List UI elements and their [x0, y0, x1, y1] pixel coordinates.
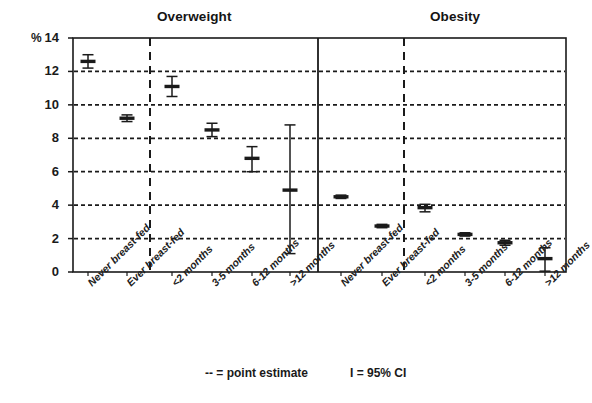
data-point-marker: [245, 147, 260, 172]
data-point-marker: [458, 233, 473, 236]
plot-frame: [73, 38, 566, 272]
y-axis-tick-label: 0: [35, 265, 59, 278]
y-axis-tick-label: 12: [35, 64, 59, 77]
data-point-marker: [334, 195, 349, 198]
y-axis-tick-label: 10: [35, 98, 59, 111]
legend-point-estimate: -- = point estimate: [205, 366, 308, 380]
y-axis-tick-label: 8: [35, 131, 59, 144]
y-axis-tick-label: 2: [35, 232, 59, 245]
data-point-marker: [120, 115, 135, 122]
y-axis-tick-label: 14: [35, 31, 59, 44]
data-point-marker: [81, 55, 96, 68]
data-point-marker: [205, 123, 220, 136]
data-point-marker: [375, 224, 390, 227]
data-point-marker: [283, 125, 298, 254]
data-point-marker: [165, 76, 180, 96]
y-axis-tick-label: 6: [35, 165, 59, 178]
y-axis-tick-label: 4: [35, 198, 59, 211]
legend-confidence-interval: I = 95% CI: [350, 366, 406, 380]
